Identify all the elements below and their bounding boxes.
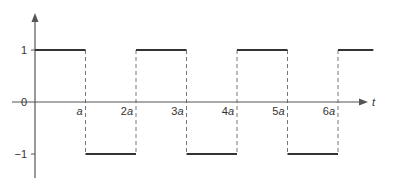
y-tick-label: −1 [14, 148, 27, 160]
y-tick-label: 1 [21, 44, 27, 56]
x-tick-label: 5a [272, 105, 284, 117]
x-tick-label: 2a [121, 105, 133, 117]
x-axis-label: t [372, 96, 376, 108]
x-tick-label: 6a [323, 105, 335, 117]
y-axis-arrow-icon [32, 13, 39, 22]
x-tick-label: 4a [222, 105, 234, 117]
square-wave-chart: 10−1a2a3a4a5a6at [0, 0, 399, 191]
x-axis-arrow-icon [359, 99, 368, 106]
x-tick-label: a [76, 105, 82, 117]
y-tick-label: 0 [21, 96, 27, 108]
x-tick-label: 3a [171, 105, 183, 117]
